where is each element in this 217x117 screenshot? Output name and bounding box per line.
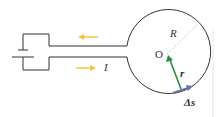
position-vector-label: r [180, 67, 185, 79]
position-vector-arrow [166, 55, 181, 89]
battery [12, 34, 49, 70]
wires [49, 46, 127, 57]
circuit-diagram: R O I r Δs [0, 0, 217, 117]
current-arrow-left [78, 34, 98, 40]
radius-label: R [169, 27, 177, 39]
current-label: I [103, 61, 109, 73]
center-label: O [155, 48, 163, 60]
current-arrow-right [76, 65, 96, 71]
segment-label: Δs [183, 96, 195, 108]
segment-arrow [173, 85, 193, 93]
current-loop [127, 10, 211, 94]
